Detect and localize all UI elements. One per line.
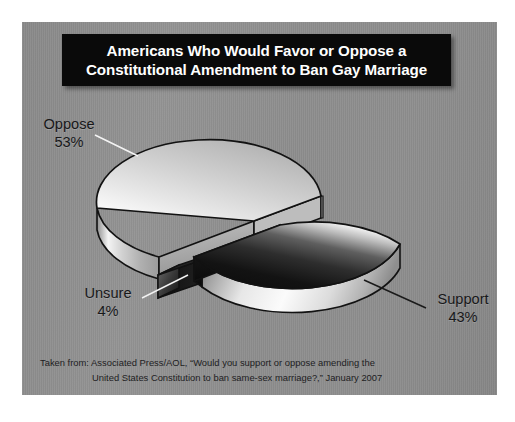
slice-label-unsure-value: 4% [72, 303, 144, 321]
slice-label-oppose: Oppose 53% [34, 116, 104, 152]
source-caption-line1: Taken from: Associated Press/AOL, “Would… [38, 356, 468, 371]
chart-title-plate: Americans Who Would Favor or Oppose a Co… [62, 34, 451, 86]
slice-label-oppose-name: Oppose [43, 116, 94, 132]
slice-label-oppose-value: 53% [34, 134, 104, 152]
slice-label-support: Support 43% [425, 291, 501, 327]
slice-label-unsure-name: Unsure [84, 285, 131, 301]
chart-figure: Americans Who Would Favor or Oppose a Co… [0, 0, 515, 422]
slice-label-support-value: 43% [425, 309, 501, 327]
source-caption-line2: United States Constitution to ban same-s… [38, 371, 468, 386]
slice-label-support-name: Support [437, 291, 488, 307]
source-caption: Taken from: Associated Press/AOL, “Would… [38, 356, 468, 385]
slice-label-unsure: Unsure 4% [72, 285, 144, 321]
page-title: Americans Who Would Favor or Oppose a Co… [78, 41, 435, 80]
